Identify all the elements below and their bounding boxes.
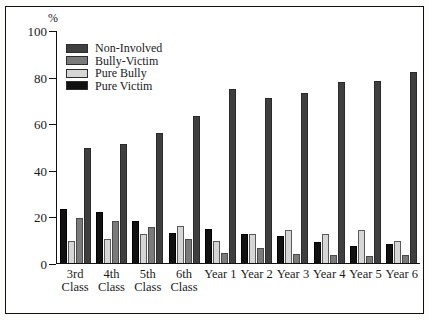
x-axis-label: 5thClass (130, 268, 166, 294)
bar (76, 218, 83, 263)
bar (257, 248, 264, 263)
bar (177, 226, 184, 263)
x-axis-label-line: Year 4 (311, 268, 347, 281)
x-axis-labels: 3rdClass4thClass5thClass6thClassYear 1Ye… (57, 268, 420, 294)
y-tick-mark (49, 171, 56, 172)
bar (394, 241, 401, 263)
y-tick-mark (49, 78, 56, 79)
bar (60, 209, 67, 263)
bar (193, 116, 200, 263)
x-axis-label-line: Year 2 (238, 268, 274, 281)
bar (350, 246, 357, 263)
bar-group (384, 31, 420, 263)
bar (68, 241, 75, 263)
bar (277, 236, 284, 263)
legend-item: Non-Involved (66, 42, 162, 55)
x-axis-label-line: Year 3 (275, 268, 311, 281)
bar (148, 227, 155, 263)
bar-group (347, 31, 383, 263)
bar-group (202, 31, 238, 263)
bar-group (238, 31, 274, 263)
bar (140, 234, 147, 263)
y-tick-label: 20 (34, 211, 47, 224)
bar (205, 229, 212, 263)
legend-item-label: Pure Bully (95, 67, 147, 79)
bar (293, 254, 300, 263)
bar (386, 244, 393, 263)
bar (330, 255, 337, 263)
x-axis-label: Year 4 (311, 268, 347, 294)
bar (374, 81, 381, 263)
x-axis-label-line: Year 6 (384, 268, 420, 281)
chart-figure: % 020406080100 3rdClass4thClass5thClass6… (0, 0, 429, 320)
bar (169, 233, 176, 263)
y-tick-label: 60 (34, 118, 47, 131)
bar (366, 256, 373, 263)
x-axis-label: Year 5 (347, 268, 383, 294)
bar (402, 255, 409, 263)
y-tick-label: 0 (41, 258, 48, 271)
x-axis-label-line: Year 5 (347, 268, 383, 281)
bar-group (311, 31, 347, 263)
bar (410, 72, 417, 263)
x-axis-label: 3rdClass (57, 268, 93, 294)
x-axis-label-line: Year 1 (202, 268, 238, 281)
legend-item: Pure Bully (66, 67, 162, 80)
legend-item-label: Non-Involved (95, 42, 162, 54)
bar-group (275, 31, 311, 263)
y-tick-mark (49, 31, 56, 32)
y-tick-mark (49, 264, 56, 265)
dark-gray-swatch (66, 44, 88, 53)
x-axis-label-line: Class (166, 281, 202, 294)
bar (322, 234, 329, 263)
bar (338, 82, 345, 263)
x-axis-label: Year 2 (238, 268, 274, 294)
bar (96, 212, 103, 263)
bar (285, 230, 292, 263)
y-tick-label: 40 (34, 164, 47, 177)
y-tick-mark (49, 217, 56, 218)
y-tick-label: 80 (34, 71, 47, 84)
x-axis-label: Year 6 (384, 268, 420, 294)
y-tick-mark (49, 124, 56, 125)
x-axis-label: Year 3 (275, 268, 311, 294)
bar (104, 239, 111, 263)
bar (301, 93, 308, 263)
chart-legend: Non-InvolvedBully-VictimPure BullyPure V… (66, 42, 162, 92)
bar (265, 98, 272, 263)
bar (185, 239, 192, 263)
x-axis-label: Year 1 (202, 268, 238, 294)
bar (213, 241, 220, 263)
black-swatch (66, 81, 88, 90)
bar (241, 234, 248, 263)
x-axis-label-line: Class (57, 281, 93, 294)
x-axis-label-line: Class (130, 281, 166, 294)
y-axis-unit-label: % (48, 12, 58, 24)
light-gray-swatch (66, 69, 88, 78)
bar (112, 221, 119, 263)
medium-gray-swatch (66, 56, 88, 65)
y-tick-label: 100 (28, 25, 48, 38)
bar-group (166, 31, 202, 263)
bar (314, 242, 321, 263)
bar (156, 133, 163, 263)
x-axis-label: 6thClass (166, 268, 202, 294)
bar (221, 253, 228, 263)
bar (84, 148, 91, 263)
bar (132, 221, 139, 263)
legend-item-label: Pure Victim (95, 80, 152, 92)
bar (229, 89, 236, 263)
x-axis-label: 4thClass (93, 268, 129, 294)
bar (358, 230, 365, 263)
legend-item: Bully-Victim (66, 55, 162, 68)
x-axis-line (56, 263, 420, 264)
legend-item: Pure Victim (66, 80, 162, 93)
bar (120, 144, 127, 263)
bar (249, 234, 256, 263)
legend-item-label: Bully-Victim (95, 55, 158, 67)
x-axis-label-line: Class (93, 281, 129, 294)
